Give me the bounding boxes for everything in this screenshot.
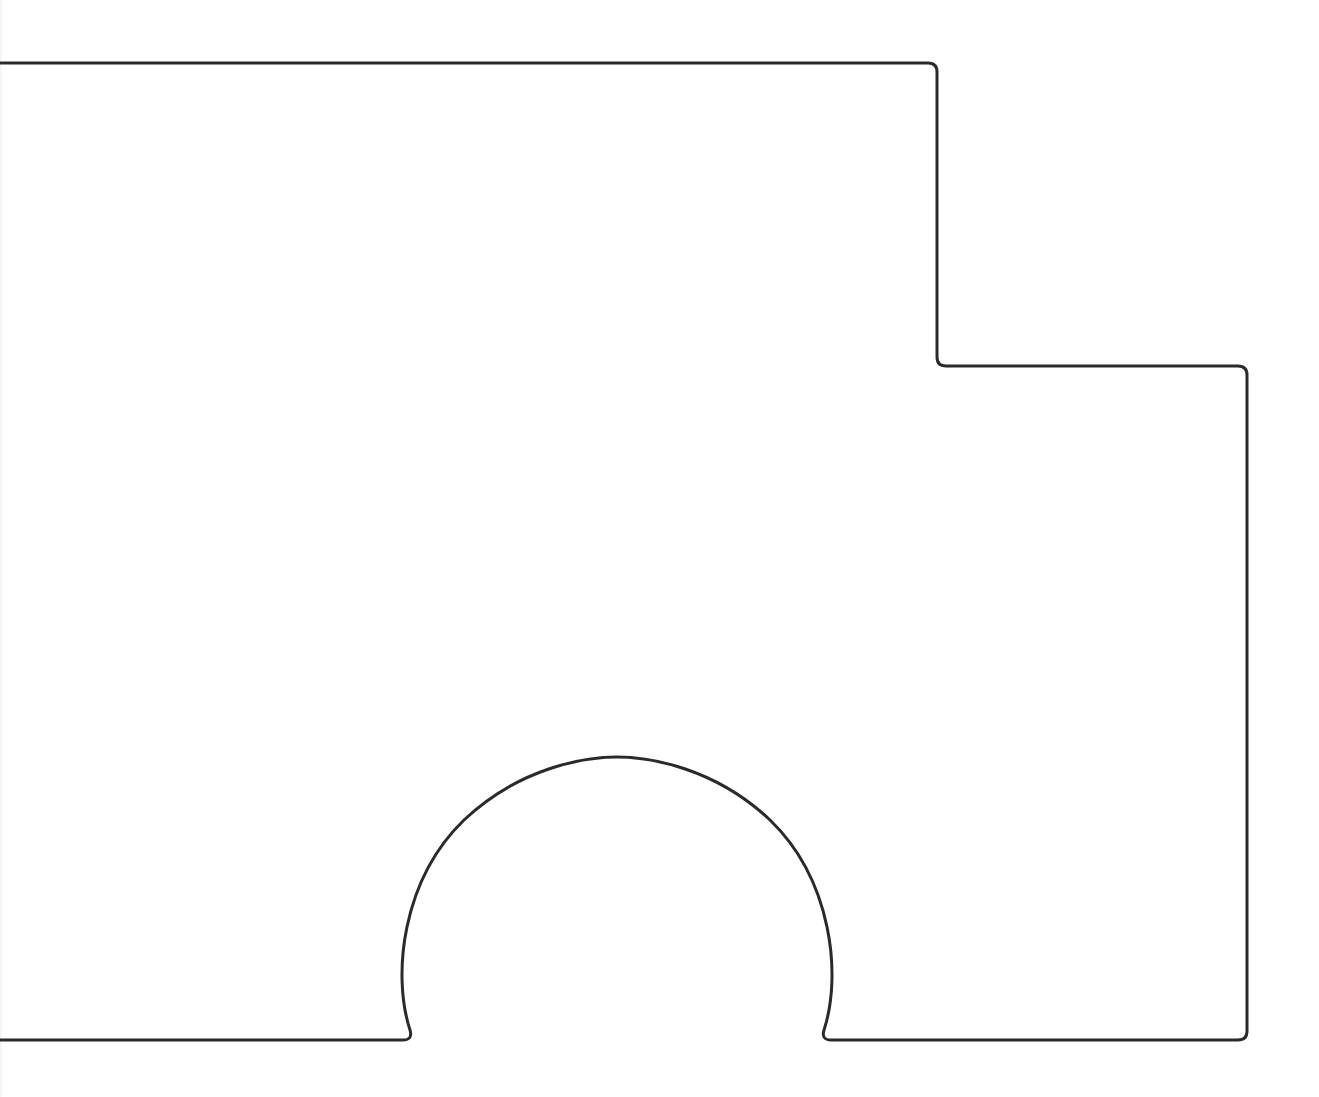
diagram-canvas [0, 0, 1319, 1097]
outline-shape [0, 63, 1247, 1040]
